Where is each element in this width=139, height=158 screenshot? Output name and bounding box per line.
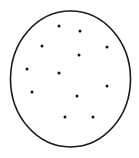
dot xyxy=(41,45,44,48)
dot xyxy=(31,91,34,94)
dot xyxy=(106,46,109,49)
dot xyxy=(106,85,109,88)
dot xyxy=(92,116,95,119)
dot xyxy=(79,30,82,33)
dot xyxy=(26,68,29,71)
background xyxy=(0,0,139,158)
dot xyxy=(58,25,61,28)
dot xyxy=(58,72,61,75)
dot xyxy=(78,54,81,57)
dots-in-ellipse-diagram xyxy=(0,0,139,158)
dot xyxy=(76,95,79,98)
dot xyxy=(64,116,67,119)
